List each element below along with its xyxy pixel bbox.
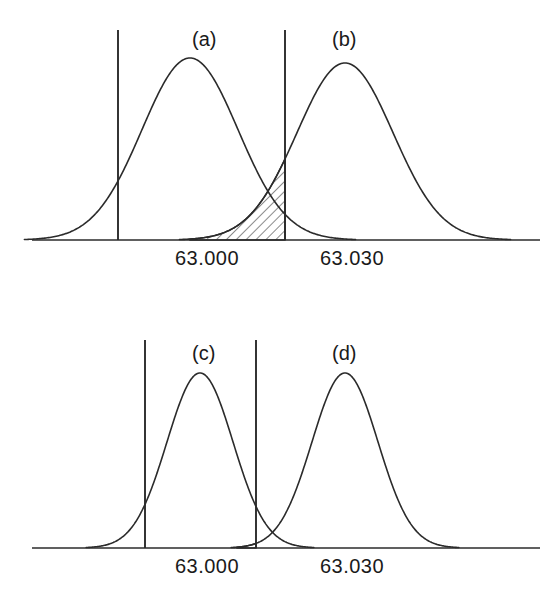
x-tick-label-63030-top: 63.030 <box>320 247 384 269</box>
distribution-curve-b <box>179 63 510 240</box>
panel-bottom: (c) (d) 63.000 63.030 <box>32 340 540 577</box>
curve-label-a: (a) <box>192 28 216 50</box>
curve-label-d: (d) <box>332 342 356 364</box>
x-tick-label-63030-bottom: 63.030 <box>320 555 384 577</box>
x-tick-label-63000-bottom: 63.000 <box>175 555 239 577</box>
distribution-curve-c <box>86 373 314 548</box>
figure-canvas: (a) (b) 63.000 63.030 (c) (d) 63.000 63.… <box>0 0 560 607</box>
distribution-curve-a <box>24 58 355 240</box>
x-tick-label-63000-top: 63.000 <box>175 247 239 269</box>
panel-top: (a) (b) 63.000 63.030 <box>24 28 540 269</box>
statistical-distribution-figure: (a) (b) 63.000 63.030 (c) (d) 63.000 63.… <box>0 0 560 607</box>
distribution-curve-d <box>231 373 459 548</box>
curve-label-b: (b) <box>332 28 356 50</box>
curve-label-c: (c) <box>192 342 215 364</box>
shaded-overlap-region-top <box>190 159 285 240</box>
